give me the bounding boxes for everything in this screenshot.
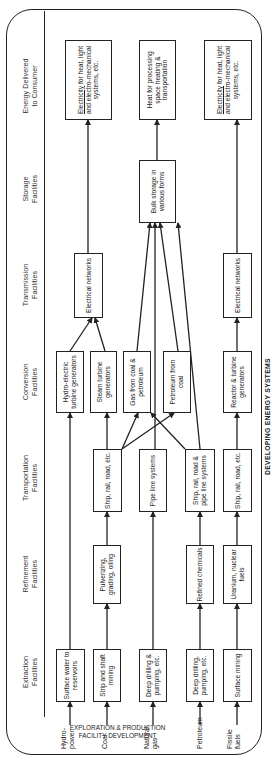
box-label: Electrical networks [234,258,242,313]
footer-line: FACILITY DEVELOPMENT [79,732,157,739]
box-electrical-networks-1: Electrical networks [74,253,103,318]
box-coal-extraction: Strip and shaft mining [93,649,121,702]
box-label: Surface mining [234,654,242,698]
box-fissile-transport: Ship, rail, road, etc. [223,449,252,512]
energy-systems-diagram: ExtractionFacilities RefinementFacilitie… [0,0,278,765]
box-coal-transport: Ship, rail, road, etc. [93,449,122,512]
box-label: Steam turbine generators [96,353,112,411]
footer-line: EXPLORATION & PRODUCTION [70,724,166,731]
box-label: Electrical networks [85,258,93,313]
box-electrical-networks-2: Electrical networks [223,253,252,318]
exploration-footer: EXPLORATION & PRODUCTIONFACILITY DEVELOP… [63,724,173,739]
electricity-underlined: Electricity [216,86,223,114]
box-label: Gas from coal & petroleum [129,353,145,411]
box-petroleum-transport: Ship, rail, road & pipe line systems [185,449,215,512]
box-deliver-heat: Heat for processing space heating & tran… [139,40,176,120]
box-label: Deep drilling, pumping, etc. [192,651,208,700]
box-label: Electricity for heat, light and electro-… [216,42,239,118]
box-label: Reactor & turbine generators [230,353,246,411]
box-label: Heat for processing space heating & tran… [146,42,169,118]
box-petroleum-refinement: Refined chemicals [186,545,214,604]
box-label: Pulverizing, grading, oiling [99,547,115,602]
box-label: Electricity for heat, light and electro-… [77,42,100,118]
box-bulk-storage: Bulk storage in various forms [139,160,176,223]
box-label: Ship, rail, road, etc. [104,452,112,509]
box-gas-transport: Pipe line systems [139,449,167,512]
box-gas-extraction: Deep drilling & pumping, etc. [139,649,167,702]
box-label: Uranium, nuclear fuels [230,547,246,602]
box-label: Surface water to reservoirs [63,651,79,700]
box-label: Petroleum from coal [169,353,185,411]
box-fissile-refinement: Uranium, nuclear fuels [223,545,252,604]
diagram-title: DEVELOPING ENERGY SYSTEMS [264,358,271,475]
box-nuclear-conversion: Reactor & turbine generators [223,351,252,413]
box-label: Ship, rail, road, etc. [234,452,242,509]
box-label: Deep drilling & pumping, etc. [145,651,161,700]
box-label: Refined chemicals [196,548,204,602]
box-deliver-electricity-1: Electricity for heat, light and electro-… [65,40,112,120]
box-label: Ship, rail, road & pipe line systems [192,451,208,510]
box-hydro-conversion: Hydro-electric turbine generators [56,351,84,413]
box-petroleum-extraction: Deep drilling, pumping, etc. [186,649,214,702]
box-coal-refinement: Pulverizing, grading, oiling [93,545,121,604]
box-label: Bulk storage in various forms [150,162,166,221]
box-fissile-extraction: Surface mining [223,649,252,702]
box-hydro-extraction: Surface water to reservoirs [56,649,85,702]
box-label: Strip and shaft mining [99,651,115,700]
electricity-underlined: Electricity [77,86,84,114]
box-steam-conversion: Steam turbine generators [90,351,117,413]
box-deliver-electricity-2: Electricity for heat, light and electro-… [204,40,252,120]
box-petroleum-from-coal: Petroleum from coal [163,351,191,413]
box-gas-conversion: Gas from coal & petroleum [123,351,151,413]
box-label: Pipe line systems [149,455,157,506]
box-label: Hydro-electric turbine generators [62,353,78,411]
